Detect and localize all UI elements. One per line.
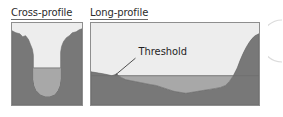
cut-off-circle-decoration	[268, 18, 283, 64]
long-profile-panel: Threshold	[90, 22, 260, 106]
cross-profile-panel	[11, 22, 83, 106]
panel-title-long-profile: Long-profile	[90, 7, 148, 20]
panel-title-cross-profile: Cross-profile	[11, 7, 72, 20]
figure-root: Cross-profile Long-profile Threshold	[0, 0, 283, 117]
long-profile-drawing: Threshold	[91, 23, 259, 105]
cross-profile-drawing	[12, 23, 82, 105]
threshold-annotation-label: Threshold	[137, 46, 187, 57]
